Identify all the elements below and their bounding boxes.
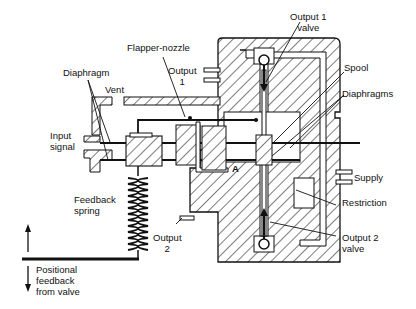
label-flapper-nozzle: Flapper-nozzle: [127, 42, 190, 53]
label-supply: Supply: [354, 172, 383, 183]
label-line: Input: [50, 130, 75, 141]
label-line: Feedback: [74, 194, 116, 205]
label-restriction: Restriction: [342, 197, 387, 208]
label-output-2: Output 2: [153, 232, 182, 254]
feedback-spring: [128, 166, 148, 258]
label-diaphragm: Diaphragm: [63, 67, 109, 78]
label-line: Positional: [36, 264, 80, 275]
label-vent: Vent: [105, 84, 124, 95]
label-line: 2: [153, 243, 182, 254]
label-line: Output: [168, 65, 197, 76]
label-line: from valve: [36, 286, 80, 297]
label-line: signal: [50, 141, 75, 152]
input-diaphragm-block: [126, 133, 162, 166]
label-line: valve: [290, 22, 326, 33]
label-line: feedback: [36, 275, 80, 286]
label-line: spring: [74, 205, 116, 216]
label-line: 1: [168, 76, 197, 87]
label-line: valve: [342, 243, 378, 254]
label-output-2-valve: Output 2 valve: [342, 232, 378, 254]
label-output-1-valve: Output 1 valve: [290, 11, 326, 33]
label-input-signal: Input signal: [50, 130, 75, 152]
label-line: Output: [153, 232, 182, 243]
positioner-diagram: [0, 0, 416, 309]
label-output-1: Output 1: [168, 65, 197, 87]
label-line: Output 1: [290, 11, 326, 22]
label-spool: Spool: [344, 62, 368, 73]
label-line: Output 2: [342, 232, 378, 243]
label-feedback-spring: Feedback spring: [74, 194, 116, 216]
output-2-port: [180, 216, 194, 220]
label-point-a: A: [232, 163, 239, 174]
label-diaphragms: Diaphragms: [342, 88, 393, 99]
nozzle-block: [176, 122, 228, 172]
label-positional-feedback: Positional feedback from valve: [36, 264, 80, 297]
